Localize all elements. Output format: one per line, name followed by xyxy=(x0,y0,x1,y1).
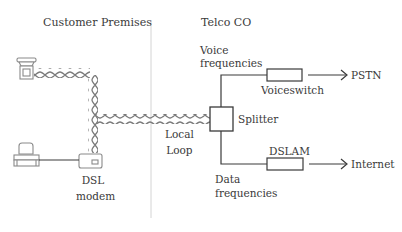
twisted-pair-phone xyxy=(34,68,98,153)
pstn-label: PSTN xyxy=(351,69,381,82)
voice-frequencies-label: Voice frequencies xyxy=(200,44,262,70)
section-customer-premises: Customer Premises xyxy=(43,16,152,29)
data-frequencies-line2: frequencies xyxy=(215,187,277,200)
dslam-box xyxy=(267,158,303,170)
splitter-label: Splitter xyxy=(238,113,278,126)
local-loop-line2: Loop xyxy=(165,144,194,157)
voice-frequencies-line2: frequencies xyxy=(200,57,262,70)
dsl-modem-line2: modem xyxy=(76,190,110,203)
dslam-label: DSLAM xyxy=(269,145,310,158)
dsl-network-diagram xyxy=(0,0,402,232)
dsl-modem-icon xyxy=(79,154,102,168)
data-frequencies-line1: Data xyxy=(215,173,277,186)
dsl-modem-line1: DSL xyxy=(76,174,110,187)
voiceswitch-label: Voiceswitch xyxy=(261,84,324,97)
local-loop-label: Local Loop xyxy=(165,128,194,157)
internet-label: Internet xyxy=(351,158,395,171)
data-path xyxy=(221,131,267,164)
local-loop-line1: Local xyxy=(165,128,194,141)
data-frequencies-label: Data frequencies xyxy=(215,173,277,200)
voiceswitch-box xyxy=(267,69,302,81)
computer-icon xyxy=(14,143,39,166)
dsl-modem-label: DSL modem xyxy=(76,174,110,203)
twisted-pair-local-loop xyxy=(96,114,210,124)
splitter-box xyxy=(210,107,233,131)
voice-frequencies-line1: Voice xyxy=(200,44,262,57)
section-telco-co: Telco CO xyxy=(201,16,251,29)
telephone-icon xyxy=(17,58,36,79)
